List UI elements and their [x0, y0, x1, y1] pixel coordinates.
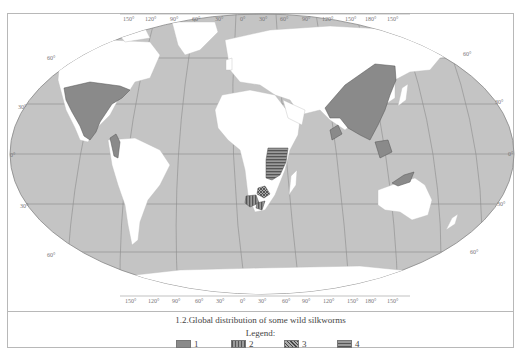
svg-text:30°: 30°	[259, 16, 268, 22]
legend-label: 1	[194, 339, 199, 349]
svg-text:60°: 60°	[192, 16, 201, 22]
svg-text:0°: 0°	[240, 298, 246, 304]
longitude-labels-top: 150° 120° 90° 60° 30° 0° 30° 60° 90° 120…	[123, 16, 399, 22]
svg-text:60°: 60°	[463, 51, 472, 57]
svg-text:90°: 90°	[172, 298, 181, 304]
svg-text:150°: 150°	[387, 16, 399, 22]
figure-caption: 1.2.Global distribution of some wild sil…	[0, 315, 521, 325]
svg-text:180°: 180°	[365, 16, 377, 22]
legend-swatch-horizontal-stripes	[337, 340, 352, 348]
svg-text:180°: 180°	[365, 298, 377, 304]
legend: 1 2 3 4	[0, 339, 521, 351]
svg-text:0°: 0°	[240, 16, 246, 22]
legend-swatch-vertical-stripes	[231, 340, 246, 348]
legend-label: 2	[249, 339, 254, 349]
svg-text:90°: 90°	[302, 298, 311, 304]
longitude-labels-bottom: 150° 120° 90° 60° 30° 0° 30° 60° 90° 120…	[125, 298, 399, 304]
svg-text:90°: 90°	[302, 16, 311, 22]
svg-text:60°: 60°	[280, 16, 289, 22]
svg-text:150°: 150°	[345, 16, 357, 22]
svg-text:150°: 150°	[123, 16, 135, 22]
svg-text:0°: 0°	[508, 151, 514, 157]
svg-text:60°: 60°	[470, 249, 479, 255]
svg-text:30°: 30°	[495, 99, 504, 105]
legend-label: 4	[355, 339, 360, 349]
svg-text:60°: 60°	[195, 298, 204, 304]
svg-text:120°: 120°	[322, 16, 334, 22]
svg-text:30°: 30°	[216, 298, 225, 304]
svg-text:30°: 30°	[215, 16, 224, 22]
svg-text:120°: 120°	[145, 16, 157, 22]
svg-text:60°: 60°	[47, 55, 56, 61]
svg-text:120°: 120°	[148, 298, 160, 304]
svg-text:150°: 150°	[387, 298, 399, 304]
legend-item-3: 3	[284, 339, 307, 349]
svg-text:0°: 0°	[10, 152, 16, 158]
svg-text:30°: 30°	[258, 298, 267, 304]
legend-swatch-crosshatch	[284, 340, 299, 348]
caption-divider	[7, 311, 514, 312]
svg-text:90°: 90°	[170, 16, 179, 22]
svg-text:150°: 150°	[125, 298, 137, 304]
svg-text:150°: 150°	[347, 298, 359, 304]
legend-item-4: 4	[337, 339, 360, 349]
legend-title: Legend:	[0, 328, 521, 338]
legend-swatch-solid	[176, 340, 191, 348]
legend-label: 3	[302, 339, 307, 349]
svg-text:30°: 30°	[20, 203, 29, 209]
world-map: 150° 120° 90° 60° 30° 0° 30° 60° 90° 120…	[0, 0, 521, 312]
legend-item-1: 1	[176, 339, 199, 349]
svg-text:60°: 60°	[282, 298, 291, 304]
svg-text:30°: 30°	[497, 201, 506, 207]
svg-text:120°: 120°	[323, 298, 335, 304]
legend-item-2: 2	[231, 339, 254, 349]
svg-text:60°: 60°	[47, 252, 56, 258]
svg-text:30°: 30°	[18, 104, 27, 110]
